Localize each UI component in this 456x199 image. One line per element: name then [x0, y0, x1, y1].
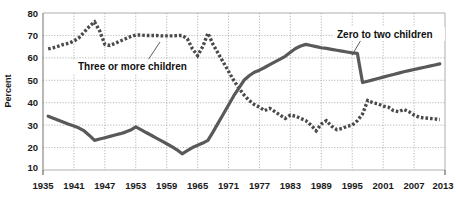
chart-container: 10 20 30 40 50 60 70 80 Percent 1935 194… [0, 0, 456, 199]
x-tick-1995: 1995 [342, 180, 364, 191]
y-tick-60: 60 [27, 52, 38, 63]
x-tick-1941: 1941 [63, 180, 85, 191]
x-tick-2001: 2001 [373, 180, 395, 191]
x-tick-1959: 1959 [156, 180, 177, 191]
x-tick-1989: 1989 [311, 180, 332, 191]
x-axis-tick-labels: 1935 1941 1947 1953 1959 1965 1971 1977 … [32, 180, 453, 191]
y-tick-80: 80 [27, 8, 38, 19]
y-axis-tick-labels: 10 20 30 40 50 60 70 80 [27, 8, 38, 173]
y-tick-70: 70 [27, 30, 38, 41]
annotation-three-or-more-children: Three or more children [73, 42, 195, 73]
y-axis-title: Percent [3, 74, 13, 107]
y-tick-10: 10 [27, 162, 38, 173]
x-tick-1953: 1953 [125, 180, 146, 191]
x-tick-1971: 1971 [218, 180, 240, 191]
horizontal-gridlines [43, 35, 445, 147]
annotation-label-zero-to-two-children: Zero to two children [337, 29, 433, 40]
annotation-zero-to-two-children: Zero to two children [333, 27, 445, 55]
y-tick-30: 30 [27, 120, 38, 131]
x-tick-1947: 1947 [94, 180, 115, 191]
x-tick-2007: 2007 [404, 180, 425, 191]
x-tick-1965: 1965 [187, 180, 209, 191]
x-tick-1935: 1935 [32, 180, 54, 191]
annotation-label-three-or-more-children: Three or more children [78, 61, 187, 72]
x-tick-1977: 1977 [249, 180, 270, 191]
line-chart: 10 20 30 40 50 60 70 80 Percent 1935 194… [0, 0, 456, 199]
x-tickmarks [43, 170, 445, 175]
y-tick-50: 50 [27, 75, 38, 86]
y-tick-20: 20 [27, 142, 38, 153]
x-tick-1983: 1983 [280, 180, 301, 191]
x-tick-2013: 2013 [432, 180, 453, 191]
y-tick-40: 40 [27, 97, 38, 108]
